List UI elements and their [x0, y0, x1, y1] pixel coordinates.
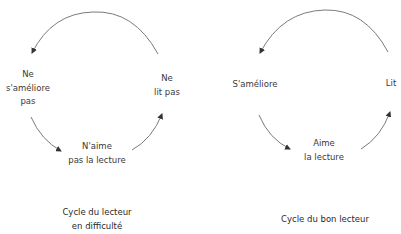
- node-text: lit pas: [154, 86, 180, 100]
- caption-text: en difficulté: [62, 219, 131, 233]
- caption-good-reader: Cycle du bon lecteur: [281, 212, 369, 226]
- node-text: Lit: [386, 77, 396, 91]
- node-text: S'améliore: [233, 78, 278, 92]
- node-text: pas la lecture: [68, 154, 126, 168]
- node-n-aime-pas-la-lecture: N'aime pas la lecture: [68, 140, 126, 167]
- node-text: N'aime: [68, 140, 126, 154]
- node-text: la lecture: [304, 151, 344, 165]
- node-s-ameliore: S'améliore: [233, 78, 278, 92]
- node-ne-lit-pas: Ne lit pas: [154, 72, 180, 99]
- arc-top-right-cycle: [260, 10, 388, 53]
- node-text: s'améliore: [6, 82, 50, 96]
- node-ne-s-ameliore-pas: Ne s'améliore pas: [6, 68, 50, 109]
- caption-text: Cycle du lecteur: [62, 205, 131, 219]
- caption-text: Cycle du bon lecteur: [281, 212, 369, 226]
- arc-top-left-cycle: [32, 12, 158, 54]
- caption-struggling-reader: Cycle du lecteur en difficulté: [62, 205, 131, 233]
- node-lit: Lit: [386, 77, 396, 91]
- arc-bottom-left-right-cycle: [259, 115, 290, 149]
- arc-bottom-left-left-cycle: [31, 117, 61, 151]
- arc-bottom-right-left-cycle: [132, 114, 162, 150]
- node-text: Ne: [154, 72, 180, 86]
- arc-bottom-right-right-cycle: [361, 112, 390, 149]
- node-aime-la-lecture: Aime la lecture: [304, 137, 344, 164]
- node-text: Aime: [304, 137, 344, 151]
- node-text: pas: [6, 95, 50, 109]
- node-text: Ne: [6, 68, 50, 82]
- cycle-arrows: [0, 0, 401, 234]
